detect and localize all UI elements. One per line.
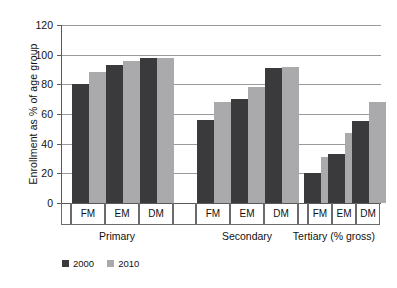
cat-cell-tertiary-dm: DM: [356, 203, 380, 225]
y-tick-label-20: 20: [13, 167, 53, 179]
y-tick-label-100: 100: [13, 49, 53, 61]
bar-primary-em-2010: [123, 61, 140, 203]
bar-secondary-dm-2000: [265, 68, 282, 203]
legend-entry-2010: 2010: [107, 258, 139, 269]
bar-primary-dm-2000: [140, 58, 157, 203]
bar-secondary-fm-2000: [197, 120, 214, 203]
bar-primary-fm-2010: [89, 72, 106, 203]
legend-swatch-icon-2010: [107, 260, 114, 267]
y-tick-label-0: 0: [13, 197, 53, 209]
cat-cell-primary-em: EM: [105, 203, 139, 225]
cat-cell-secondary-fm: FM: [196, 203, 230, 225]
cat-cell-spacer-left: [61, 203, 71, 225]
bar-tertiary-dm-2010: [369, 102, 386, 203]
cat-cell-tertiary-fm: FM: [308, 203, 332, 225]
bar-tertiary-fm-2000: [304, 173, 321, 203]
cat-cell-secondary-em: EM: [230, 203, 264, 225]
y-tick-label-120: 120: [13, 19, 53, 31]
bar-secondary-em-2000: [231, 99, 248, 203]
cat-cell-spacer-mid-1: [173, 203, 196, 225]
bar-secondary-em-2010: [248, 87, 265, 203]
legend-entry-2000: 2000: [62, 258, 94, 269]
cat-cell-primary-fm: FM: [71, 203, 105, 225]
bar-secondary-dm-2010: [282, 67, 299, 203]
bar-chart-figure: Enrollment as % of age group 120 100 80 …: [0, 0, 397, 288]
bar-secondary-fm-2010: [214, 102, 231, 203]
y-tick-label-60: 60: [13, 108, 53, 120]
bars-layer: [62, 25, 381, 203]
legend-label-2010: 2010: [118, 258, 139, 269]
bar-primary-dm-2010: [157, 58, 174, 203]
y-tick-label-40: 40: [13, 138, 53, 150]
category-axis: FM EM DM FM EM DM FM EM DM: [61, 203, 380, 225]
bar-tertiary-dm-2000: [352, 121, 369, 203]
legend-label-2000: 2000: [73, 258, 94, 269]
group-label-primary: Primary: [61, 230, 173, 242]
bar-primary-em-2000: [106, 65, 123, 203]
plot-area: [61, 25, 380, 203]
group-label-secondary: Secondary: [196, 230, 298, 242]
cat-cell-spacer-mid-2: [298, 203, 308, 225]
y-tick-label-80: 80: [13, 78, 53, 90]
legend-swatch-icon-2000: [62, 260, 69, 267]
legend: 2000 2010: [62, 258, 139, 269]
bar-primary-fm-2000: [72, 84, 89, 203]
cat-cell-primary-dm: DM: [139, 203, 173, 225]
cat-cell-tertiary-em: EM: [332, 203, 356, 225]
group-label-tertiary: Tertiary (% gross): [284, 230, 384, 242]
bar-tertiary-em-2000: [328, 154, 345, 203]
cat-cell-secondary-dm: DM: [264, 203, 298, 225]
